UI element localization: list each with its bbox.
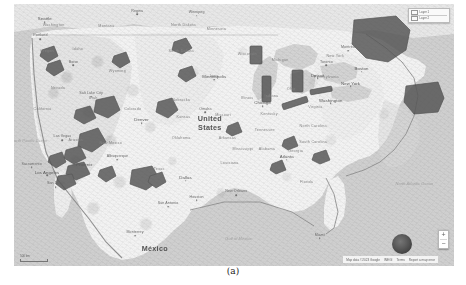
city-marker-dot <box>235 194 237 196</box>
city-marker-dot <box>319 237 321 239</box>
city-marker-dot <box>262 105 264 107</box>
city-marker-dot <box>326 65 328 67</box>
city-marker-dot <box>117 159 119 161</box>
city-marker-dot <box>46 175 48 177</box>
zoom-in-button[interactable]: + <box>439 231 448 240</box>
map-attribution-bar[interactable]: Map data ©2023 Google INEGI Terms Report… <box>343 256 438 263</box>
city-marker-dot <box>361 71 363 73</box>
attribution-item: Map data ©2023 Google <box>346 258 380 262</box>
scale-bar-label: 500 km <box>20 254 30 258</box>
legend-swatch-icon <box>411 10 418 15</box>
city-marker-dot <box>73 65 75 67</box>
figure-caption: (a) <box>0 266 466 276</box>
city-marker-dot <box>213 79 215 81</box>
zoom-out-button[interactable]: − <box>439 240 448 249</box>
city-marker-dot <box>40 38 42 40</box>
city-marker-dot <box>44 21 46 23</box>
city-marker-dot <box>136 13 138 15</box>
city-marker-dot <box>167 206 169 208</box>
map-legend-box[interactable]: Layer 1 Layer 2 <box>408 8 450 23</box>
city-marker-dot <box>134 235 136 237</box>
legend-row[interactable]: Layer 2 <box>411 16 447 20</box>
city-marker-dot <box>185 180 187 182</box>
legend-row-label: Layer 2 <box>420 16 430 20</box>
city-marker-dot <box>62 139 64 141</box>
map-canvas[interactable]: North Pacific OceanNorth Atlantic OceanG… <box>14 4 454 266</box>
city-marker-dot <box>141 122 143 124</box>
map-zoom-control[interactable]: + − <box>438 230 449 250</box>
legend-row-label: Layer 1 <box>420 10 430 14</box>
data-cluster-marker[interactable] <box>392 234 412 254</box>
city-marker-dot <box>348 50 350 52</box>
city-marker-dot <box>31 167 33 169</box>
city-marker-dot <box>84 167 86 169</box>
attribution-item: INEGI <box>384 258 392 262</box>
attribution-terms-link[interactable]: Terms <box>396 258 404 262</box>
scale-bar-line <box>20 259 48 262</box>
city-marker-dot <box>330 103 332 105</box>
legend-row[interactable]: Layer 1 <box>411 11 447 15</box>
city-marker-dot <box>196 15 198 17</box>
attribution-report-link[interactable]: Report a map error <box>409 258 435 262</box>
city-marker-dot <box>196 199 198 201</box>
city-marker-dot <box>317 78 319 80</box>
map-scale-bar: 500 km <box>20 254 48 262</box>
figure-panel: North Pacific OceanNorth Atlantic OceanG… <box>0 0 466 285</box>
data-overlay-layer[interactable] <box>14 4 454 266</box>
city-marker-dot <box>205 112 207 114</box>
city-marker-dot <box>286 159 288 161</box>
legend-swatch-icon <box>411 16 418 21</box>
city-marker-dot <box>90 96 92 98</box>
city-marker-dot <box>350 85 352 87</box>
city-marker-dot <box>55 186 57 188</box>
